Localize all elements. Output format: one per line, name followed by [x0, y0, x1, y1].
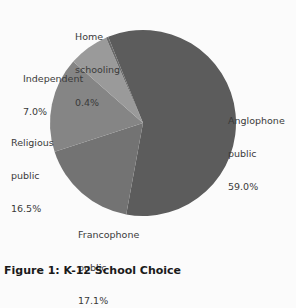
label-home-schooling: Home schooling 0.4% [75, 9, 120, 130]
label-anglophone-line1: Anglophone [228, 115, 285, 126]
label-religious-line2: public [11, 170, 54, 181]
label-home-value: 0.4% [75, 97, 120, 108]
label-francophone: Francophone public 17.1% [78, 207, 139, 308]
label-religious-value: 16.5% [11, 203, 54, 214]
label-home-line2: schooling [75, 64, 120, 75]
label-anglophone: Anglophone public 59.0% [228, 93, 285, 214]
label-anglophone-value: 59.0% [228, 181, 285, 192]
label-anglophone-line2: public [228, 148, 285, 159]
label-francophone-value: 17.1% [78, 295, 139, 306]
label-francophone-line1: Francophone [78, 229, 139, 240]
figure-caption: Figure 1: K-12 School Choice [4, 264, 181, 277]
label-home-line1: Home [75, 31, 120, 42]
